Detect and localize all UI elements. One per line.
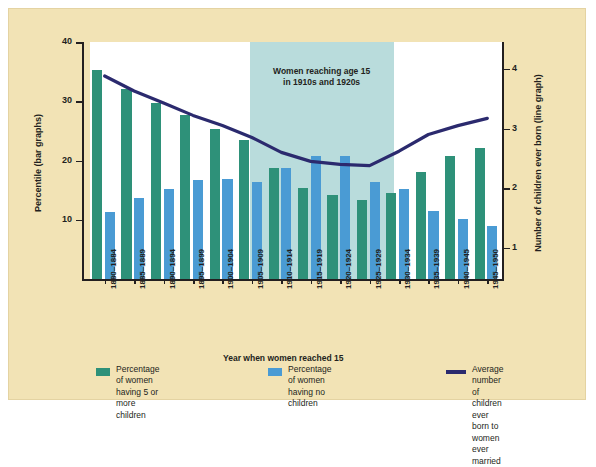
x-axis-tick-label-1935-1939: 1935–1939	[432, 249, 441, 289]
x-axis-tick-1930-1934	[399, 279, 401, 284]
bar-green-1900-1904	[210, 129, 220, 279]
x-axis-tick-1935-1939	[428, 279, 430, 284]
left-axis-tick-label-10: 10	[50, 214, 72, 224]
left-axis-title: Percentile (bar graphs)	[33, 73, 43, 253]
legend-color-swatch	[268, 368, 282, 376]
x-axis-tick-label-1895-1899: 1895–1899	[197, 249, 206, 289]
legend-label: Percentage of women having no children	[288, 364, 331, 410]
bar-green-1885-1889	[121, 89, 131, 279]
x-axis-tick-1925-1929	[370, 279, 372, 284]
left-axis-tick-30	[76, 101, 82, 103]
bar-green-1940-1945	[445, 156, 455, 279]
x-axis-tick-1920-1924	[340, 279, 342, 284]
legend-color-swatch	[96, 368, 110, 376]
right-axis-tick-label-1: 1	[512, 242, 534, 252]
x-axis-title: Year when women reached 15	[223, 353, 343, 363]
left-axis-tick-label-40: 40	[50, 36, 72, 46]
right-axis-tick-3	[504, 129, 510, 131]
x-axis-tick-label-1900-1904: 1900–1904	[226, 249, 235, 289]
right-axis-tick-2	[504, 188, 510, 190]
left-axis-line	[82, 42, 84, 280]
left-axis-tick-20	[76, 161, 82, 163]
x-axis-tick-label-1915-1919: 1915–1919	[315, 249, 324, 289]
x-axis-tick-1945-1950	[487, 279, 489, 284]
x-axis-tick-label-1890-1894: 1890–1894	[168, 249, 177, 289]
x-axis-tick-1895-1899	[193, 279, 195, 284]
x-axis-tick-1915-1919	[311, 279, 313, 284]
x-axis-tick-1880-1884	[105, 279, 107, 284]
x-axis-tick-label-1905-1909: 1905–1909	[256, 249, 265, 289]
bar-green-1915-1919	[298, 188, 308, 279]
legend-label: Percentage of women having 5 or more chi…	[116, 364, 159, 421]
band-annotation-line1: Women reaching age 15	[247, 66, 397, 77]
x-axis-tick-1910-1914	[281, 279, 283, 284]
band-annotation: Women reaching age 15 in 1910s and 1920s	[247, 66, 397, 89]
x-axis-tick-label-1885-1889: 1885–1889	[138, 249, 147, 289]
x-axis-tick-label-1880-1884: 1880–1884	[109, 249, 118, 289]
legend-line-swatch	[446, 370, 466, 374]
x-axis-tick-1905-1909	[252, 279, 254, 284]
right-axis-tick-4	[504, 69, 510, 71]
x-axis-tick-label-1925-1929: 1925–1929	[374, 249, 383, 289]
right-axis-line	[502, 42, 504, 280]
x-axis-tick-label-1930-1934: 1930–1934	[403, 249, 412, 289]
x-axis-tick-label-1945-1950: 1945–1950	[491, 249, 500, 289]
right-axis-title: Number of children ever born (line graph…	[533, 73, 543, 253]
x-axis-tick-1890-1894	[164, 279, 166, 284]
bar-green-1930-1934	[386, 193, 396, 280]
bar-green-1945-1950	[475, 148, 485, 279]
left-axis-tick-label-30: 30	[50, 95, 72, 105]
bar-green-1935-1939	[416, 172, 426, 279]
right-axis-tick-label-3: 3	[512, 123, 534, 133]
legend-label: Average number of children ever born to …	[472, 364, 504, 467]
right-axis-tick-label-2: 2	[512, 182, 534, 192]
x-axis-tick-1885-1889	[134, 279, 136, 284]
x-axis-tick-label-1920-1924: 1920–1924	[344, 249, 353, 289]
right-axis-tick-label-4: 4	[512, 63, 534, 73]
bar-green-1895-1899	[180, 115, 190, 279]
bar-green-1920-1924	[327, 195, 337, 279]
left-axis-tick-label-20: 20	[50, 155, 72, 165]
bar-green-1880-1884	[92, 70, 102, 279]
x-axis-tick-1900-1904	[222, 279, 224, 284]
figure-panel: 1020304012341880–18841885–18891890–18941…	[8, 8, 586, 400]
bar-green-1890-1894	[151, 103, 161, 279]
bar-green-1925-1929	[357, 200, 367, 279]
x-axis-tick-1940-1945	[458, 279, 460, 284]
bar-green-1910-1914	[269, 168, 279, 279]
band-annotation-line2: in 1910s and 1920s	[247, 77, 397, 88]
bar-green-1905-1909	[239, 140, 249, 279]
x-axis-tick-label-1940-1945: 1940–1945	[462, 249, 471, 289]
x-axis-tick-label-1910-1914: 1910–1914	[285, 249, 294, 289]
right-axis-tick-1	[504, 248, 510, 250]
left-axis-tick-10	[76, 220, 82, 222]
left-axis-tick-40	[76, 42, 82, 44]
chart-legend: Percentage of women having 5 or more chi…	[96, 366, 566, 400]
